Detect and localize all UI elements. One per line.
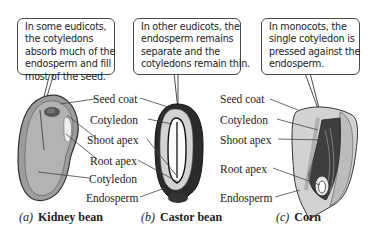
caption-letter: (b) xyxy=(141,210,155,224)
caption-kidney-bean: (a)Kidney bean xyxy=(19,210,103,225)
callout-line: most of the seed. xyxy=(25,71,109,83)
caption-letter: (a) xyxy=(19,210,33,224)
label-seed-coat-c: Seed coat xyxy=(220,93,264,105)
kidney-bean-illustration xyxy=(18,95,78,200)
castor-bean-illustration xyxy=(155,104,203,203)
label-shoot-apex-c: Shoot apex xyxy=(220,134,271,146)
label-shoot-apex-ab: Shoot apex xyxy=(87,134,138,146)
callout-line: In some eudicots, xyxy=(25,21,109,33)
callout-line: separate and the xyxy=(141,46,235,58)
callout-line: endosperm remains xyxy=(141,33,235,45)
callout-line: In other eudicots, the xyxy=(141,21,235,33)
label-cotyledon-ab-top: Cotyledon xyxy=(90,114,138,126)
caption-corn: (c)Corn xyxy=(276,210,321,225)
callout-line: absorb much of the xyxy=(25,46,109,58)
label-cotyledon-c: Cotyledon xyxy=(220,114,268,126)
caption-letter: (c) xyxy=(276,210,289,224)
label-root-apex-c: Root apex xyxy=(220,163,267,175)
callout-corn: In monocots, the single cotyledon is pre… xyxy=(261,18,360,75)
corn-kernel-illustration xyxy=(292,107,358,220)
label-seed-coat-ab: Seed coat xyxy=(93,93,137,105)
seed-anatomy-figure: In some eudicots, the cotyledons absorb … xyxy=(0,0,370,237)
callout-line: the cotyledons xyxy=(25,33,109,45)
callout-castor-bean: In other eudicots, the endosperm remains… xyxy=(133,18,241,75)
caption-name: Castor bean xyxy=(160,210,222,224)
callout-line: cotyledons remain thin. xyxy=(141,58,235,70)
callout-line: single cotyledon is xyxy=(269,33,354,45)
callout-line: endosperm. xyxy=(269,58,354,70)
caption-castor-bean: (b)Castor bean xyxy=(141,210,222,225)
label-cotyledon-ab-bottom: Cotyledon xyxy=(89,173,137,185)
caption-name: Kidney bean xyxy=(38,210,103,224)
label-endosperm-c: Endosperm xyxy=(220,192,272,204)
caption-name: Corn xyxy=(294,210,321,224)
callout-line: In monocots, the xyxy=(269,21,354,33)
label-root-apex-ab: Root apex xyxy=(90,155,137,167)
callout-line: pressed against the xyxy=(269,46,354,58)
callout-kidney-bean: In some eudicots, the cotyledons absorb … xyxy=(17,18,115,75)
callout-line: endosperm and fill xyxy=(25,58,109,70)
label-endosperm-ab: Endosperm xyxy=(86,192,138,204)
